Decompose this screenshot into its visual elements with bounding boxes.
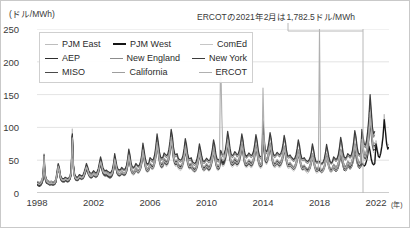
legend-row: PJM EastPJM WestComEd <box>45 37 247 51</box>
legend-label: California <box>129 68 167 77</box>
legend-label: New England <box>127 54 181 63</box>
chart-legend: PJM EastPJM WestComEdAEPNew EnglandNew Y… <box>39 32 253 83</box>
ercot-spike-annotation: ERCOTの2021年2月は1,782.5ドル/MWh <box>197 10 355 22</box>
y-tick-label: 100 <box>0 122 19 133</box>
legend-item-aep[interactable]: AEP <box>45 54 110 63</box>
legend-label: ERCOT <box>216 68 248 77</box>
x-tick-label: 2018 <box>309 197 330 208</box>
legend-item-california[interactable]: California <box>112 68 198 77</box>
x-axis-unit-label: (年) <box>391 199 403 209</box>
legend-item-pjm-west[interactable]: PJM West <box>113 40 200 49</box>
y-tick-label: 150 <box>0 89 19 100</box>
legend-item-ercot[interactable]: ERCOT <box>199 68 248 77</box>
legend-swatch-icon <box>112 72 125 73</box>
series-line-miso <box>37 122 375 186</box>
x-tick-label: 2010 <box>196 197 217 208</box>
x-tick-label: 2014 <box>252 197 273 208</box>
legend-swatch-icon <box>45 44 58 45</box>
series-line-aep <box>37 116 375 186</box>
legend-item-comed[interactable]: ComEd <box>200 40 247 49</box>
legend-row: AEPNew EnglandNew York <box>45 51 247 65</box>
legend-label: PJM West <box>130 40 171 49</box>
x-tick-label: 2002 <box>83 197 104 208</box>
x-tick-label: 1998 <box>26 197 47 208</box>
legend-label: ComEd <box>217 40 247 49</box>
legend-label: MISO <box>62 68 85 77</box>
chart-figure: (ドル/MWh) ERCOTの2021年2月は1,782.5ドル/MWh 050… <box>0 0 410 228</box>
legend-swatch-icon <box>113 43 126 45</box>
legend-swatch-icon <box>110 58 123 59</box>
legend-label: PJM East <box>62 40 101 49</box>
y-tick-label: 200 <box>0 56 19 67</box>
legend-swatch-icon <box>199 72 212 73</box>
y-tick-label: 250 <box>0 24 19 35</box>
legend-swatch-icon <box>45 58 58 59</box>
y-tick-label: 0 <box>0 188 19 199</box>
legend-swatch-icon <box>200 44 213 45</box>
legend-row: MISOCaliforniaERCOT <box>45 65 247 79</box>
legend-label: New York <box>209 54 247 63</box>
x-tick-label: 2022 <box>365 197 386 208</box>
legend-item-miso[interactable]: MISO <box>45 68 112 77</box>
y-axis-unit-label: (ドル/MWh) <box>9 7 55 19</box>
x-tick-label: 2006 <box>139 197 160 208</box>
legend-item-pjm-east[interactable]: PJM East <box>45 40 113 49</box>
legend-item-new-york[interactable]: New York <box>192 54 247 63</box>
y-tick-label: 50 <box>0 155 19 166</box>
legend-label: AEP <box>62 54 80 63</box>
legend-item-new-england[interactable]: New England <box>110 54 192 63</box>
legend-swatch-icon <box>45 72 58 73</box>
legend-swatch-icon <box>192 58 205 59</box>
